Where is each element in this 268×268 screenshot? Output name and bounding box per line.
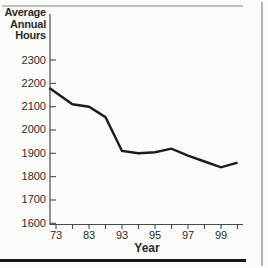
y-tick-label: 1600: [6, 217, 46, 230]
y-tick-label: 1800: [6, 170, 46, 183]
x-tick-label: 97: [175, 229, 201, 241]
x-tick-label: 83: [76, 229, 102, 241]
x-tick-label: 73: [43, 229, 69, 241]
y-tick-label: 2300: [6, 54, 46, 67]
axis-lines: [50, 14, 243, 225]
y-tick-label: 2000: [6, 123, 46, 136]
y-tick-label: 1700: [6, 193, 46, 206]
y-tick-label: 1900: [6, 147, 46, 160]
x-tick-label: 99: [208, 229, 234, 241]
x-axis-title: Year: [127, 242, 167, 254]
y-tick-label: 2200: [6, 77, 46, 90]
chart-figure: Average Annual Hours 2300220021002000190…: [0, 0, 268, 268]
y-tick-label: 2100: [6, 100, 46, 113]
x-tick-label: 95: [142, 229, 168, 241]
x-tick-label: 93: [109, 229, 135, 241]
data-line-average-annual-hours: [49, 88, 237, 167]
